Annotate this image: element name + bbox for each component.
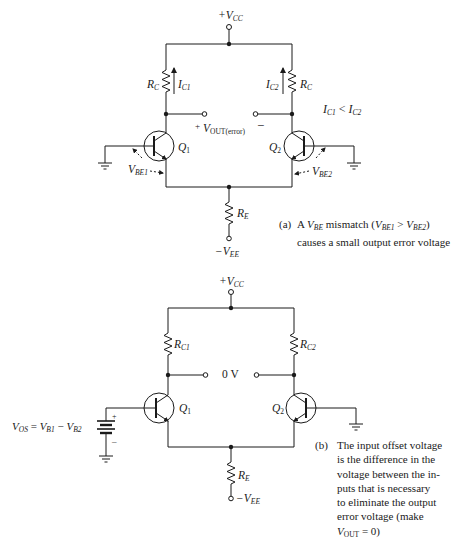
q2-label-a: Q2 xyxy=(269,142,281,155)
q2-label-b: Q2 xyxy=(272,403,284,416)
caption-b: (b) The input offset voltage is the diff… xyxy=(315,438,470,542)
transistor-q2-b xyxy=(286,393,356,423)
rc1-label: RC1 xyxy=(174,339,190,352)
vos-equation: VOS = VB1 − VB2 xyxy=(12,421,82,434)
vbe2-arrow-emitter xyxy=(295,171,309,174)
zero-volt-label: 0 V xyxy=(222,369,239,381)
re-label-a: RE xyxy=(237,208,249,221)
rc-right-label-a: RC xyxy=(300,79,312,92)
ground-icon xyxy=(98,146,112,169)
ground-icon xyxy=(99,456,113,462)
vbe2-arrow-base xyxy=(316,148,325,158)
vout-minus-terminal xyxy=(253,112,258,117)
resistor-rc-right-a xyxy=(288,70,296,92)
vcc-label-a: +VCC xyxy=(218,10,243,23)
ic1-label: IC1 xyxy=(178,79,191,92)
resistor-rc2-b xyxy=(290,333,298,355)
vout-plus-terminal xyxy=(202,112,207,117)
transistor-q1-a xyxy=(105,131,174,161)
re-label-b: RE xyxy=(238,470,250,483)
vbe1-arrow-emitter xyxy=(150,171,163,173)
vee-label-b: −VEE xyxy=(236,493,260,506)
resistor-rc1-b xyxy=(164,333,172,355)
battery-minus: – xyxy=(112,437,117,446)
resistor-re-a xyxy=(225,202,233,224)
rc-left-label-a: RC xyxy=(147,79,159,92)
q1-label-a: Q1 xyxy=(178,142,190,155)
vee-terminal-a xyxy=(227,236,232,241)
vbe2-label: VBE2 xyxy=(312,166,332,179)
transistor-q2-a xyxy=(284,131,354,161)
vcc-terminal-b xyxy=(229,290,234,295)
resistor-rc-left-a xyxy=(162,70,170,92)
current-relation: IC1 < IC2 xyxy=(323,103,361,117)
vcc-terminal-a xyxy=(227,25,232,30)
caption-a: (a) A VBE mismatch (VBE1 > VBE2) causes … xyxy=(279,217,469,250)
resistor-re-b xyxy=(227,462,235,484)
vbe1-label: VBE1 xyxy=(128,164,148,177)
vee-label-a: −VEE xyxy=(215,246,239,259)
rc2-label: RC2 xyxy=(300,339,316,352)
ground-icon xyxy=(349,408,363,430)
vcc-label-b: +VCC xyxy=(219,276,244,289)
vout-error-label: + VOUT(error) xyxy=(195,122,245,136)
ground-icon xyxy=(347,146,361,169)
vee-terminal-b xyxy=(229,496,234,501)
vbe1-arrow-base xyxy=(133,149,142,158)
battery-plus: + xyxy=(112,413,117,421)
q1-label-b: Q1 xyxy=(179,403,191,416)
vout-minus-label: – xyxy=(258,119,264,131)
ic2-label: IC2 xyxy=(266,79,279,92)
